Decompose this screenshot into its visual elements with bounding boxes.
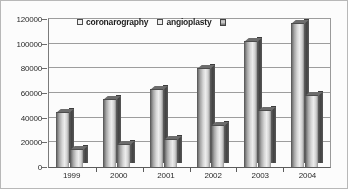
bar (305, 90, 323, 167)
bar (70, 144, 88, 168)
bar-front-face (56, 112, 69, 168)
legend-item-label: angioplasty (166, 17, 211, 27)
legend-swatch-icon (220, 19, 226, 26)
y-axis-tick-mark (42, 19, 47, 20)
bar-front-face (117, 144, 130, 167)
legend-swatch-icon (157, 19, 163, 25)
y-axis-tick-mark (42, 44, 47, 45)
bar-front-face (150, 89, 163, 167)
y-axis-tick-label: 120000 (17, 16, 43, 24)
bar-front-face (164, 139, 177, 167)
y-axis-tick-mark (42, 118, 47, 119)
bar (258, 105, 276, 167)
bar-side-face (318, 91, 323, 163)
y-axis-tick-label: 100000 (17, 41, 43, 49)
legend-swatch-icon (77, 19, 83, 25)
x-axis-tick-label: 1999 (48, 171, 95, 187)
y-axis-labels: 020000400006000080000100000120000 (1, 18, 42, 168)
bar-front-face (244, 41, 257, 167)
bar-front-face (70, 149, 83, 168)
y-axis-tick-label: 60000 (21, 90, 42, 98)
legend-item (220, 19, 226, 26)
bar-side-face (271, 106, 276, 163)
bar-front-face (197, 68, 210, 167)
x-axis-labels: 199920002001200220032004 (48, 171, 331, 187)
y-axis-tick-label: 80000 (21, 65, 42, 73)
y-axis-tick-label: 20000 (21, 139, 42, 147)
x-axis-tick-label: 2003 (237, 171, 284, 187)
bar-group (143, 19, 190, 167)
bar-front-face (258, 110, 271, 167)
x-axis-tick-label: 2000 (95, 171, 142, 187)
bar (117, 139, 135, 167)
chart-legend: coronarographyangioplasty (77, 17, 226, 27)
bar-group (190, 19, 237, 167)
bar-group (283, 19, 330, 167)
legend-item: coronarography (77, 17, 148, 27)
bar-side-face (224, 121, 229, 163)
y-axis-tick-mark (42, 68, 47, 69)
bar-group (236, 19, 283, 167)
y-axis-tick-mark (42, 142, 47, 143)
bar (211, 120, 229, 167)
bar-front-face (103, 99, 116, 167)
y-axis-tick-label: 40000 (21, 115, 42, 123)
bar (164, 134, 182, 167)
bar-chart-figure: 020000400006000080000100000120000 199920… (0, 0, 348, 189)
y-axis-tick-mark (42, 167, 47, 168)
x-axis-tick-label: 2004 (284, 171, 331, 187)
y-axis-tick-label: 0 (38, 164, 42, 172)
bar-front-face (291, 23, 304, 167)
x-axis-tick-label: 2002 (190, 171, 237, 187)
legend-item-label: coronarography (86, 17, 148, 27)
legend-item: angioplasty (157, 17, 211, 27)
bars-layer (49, 19, 330, 167)
bar-front-face (211, 125, 224, 167)
bar-group (49, 19, 96, 167)
bar-front-face (305, 95, 318, 167)
bar-group (96, 19, 143, 167)
y-axis-tick-mark (42, 93, 47, 94)
x-axis-tick-label: 2001 (142, 171, 189, 187)
